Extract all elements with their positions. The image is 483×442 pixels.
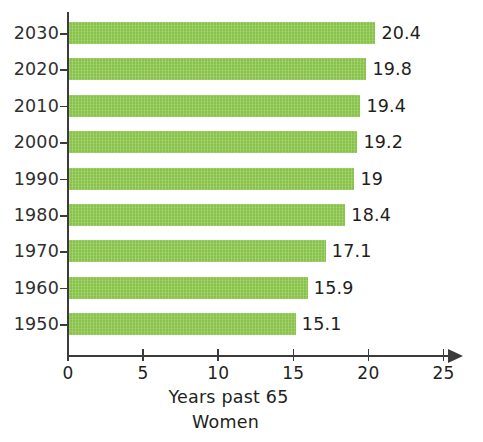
bar-value-1990: 19 <box>360 168 383 190</box>
bar-value-2030: 20.4 <box>381 22 421 44</box>
bar-value-2000: 19.2 <box>363 131 403 153</box>
bar-1970 <box>69 240 326 262</box>
bar-1980 <box>69 204 345 226</box>
x-tick-25 <box>443 349 445 361</box>
category-label-1950: 1950 <box>1 313 59 335</box>
x-tick-0 <box>67 349 69 361</box>
x-axis-line <box>67 355 456 357</box>
x-tick-label-0: 0 <box>62 363 73 383</box>
x-axis-arrow-icon <box>448 349 463 363</box>
y-tick-1990 <box>60 179 68 181</box>
bar-2000 <box>69 131 357 153</box>
x-tick-5 <box>142 349 144 361</box>
bar-1950 <box>69 313 296 335</box>
bar-2020 <box>69 58 366 80</box>
x-tick-label-5: 5 <box>138 363 149 383</box>
bar-value-2010: 19.4 <box>366 95 406 117</box>
y-tick-2030 <box>60 33 68 35</box>
category-label-1980: 1980 <box>1 204 59 226</box>
x-tick-15 <box>293 349 295 361</box>
category-label-1990: 1990 <box>1 168 59 190</box>
category-label-2030: 2030 <box>1 22 59 44</box>
y-tick-2010 <box>60 106 68 108</box>
y-tick-1970 <box>60 251 68 253</box>
x-tick-label-25: 25 <box>432 363 454 383</box>
bar-value-2020: 19.8 <box>372 58 412 80</box>
y-tick-1950 <box>60 324 68 326</box>
bar-2030 <box>69 22 375 44</box>
category-label-1970: 1970 <box>1 240 59 262</box>
bar-value-1980: 18.4 <box>351 204 391 226</box>
bar-1960 <box>69 277 308 299</box>
x-tick-10 <box>217 349 219 361</box>
bar-value-1960: 15.9 <box>314 277 354 299</box>
y-tick-1980 <box>60 215 68 217</box>
x-tick-label-15: 15 <box>282 363 304 383</box>
y-tick-2000 <box>60 142 68 144</box>
x-tick-label-20: 20 <box>357 363 379 383</box>
x-axis-subtitle: Women <box>0 411 483 433</box>
category-label-2000: 2000 <box>1 131 59 153</box>
x-axis-title: Years past 65 <box>0 386 483 408</box>
y-tick-2020 <box>60 69 68 71</box>
y-tick-1960 <box>60 288 68 290</box>
bar-value-1950: 15.1 <box>302 313 342 335</box>
x-tick-20 <box>368 349 370 361</box>
category-label-2010: 2010 <box>1 95 59 117</box>
category-label-2020: 2020 <box>1 58 59 80</box>
bar-value-1970: 17.1 <box>332 240 372 262</box>
category-label-1960: 1960 <box>1 277 59 299</box>
bar-2010 <box>69 95 360 117</box>
bar-1990 <box>69 168 354 190</box>
bar-chart: 203020202010200019901980197019601950 20.… <box>0 0 483 442</box>
x-tick-label-10: 10 <box>207 363 229 383</box>
